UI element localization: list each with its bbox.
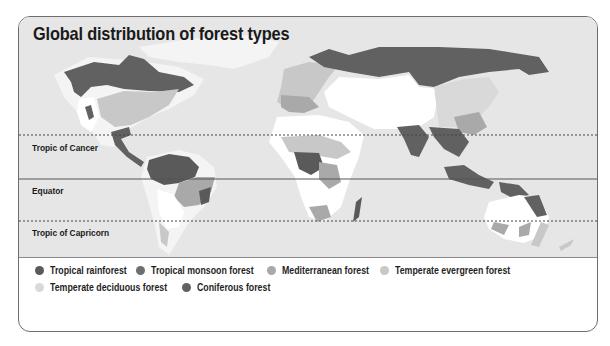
legend-item-temperate-evergreen-forest: Temperate evergreen forest — [380, 265, 516, 276]
tropical-rainforest-swatch-icon — [35, 266, 44, 275]
tropic-of-capricorn-label: Tropic of Capricorn — [32, 227, 109, 238]
equator-label: Equator — [32, 185, 64, 196]
world-map: Global distribution of forest types Trop… — [19, 17, 597, 258]
temperate-evergreen-forest-swatch-icon — [380, 266, 389, 275]
legend-item-coniferous-forest: Coniferous forest — [182, 282, 270, 293]
tropical-monsoon-forest-swatch-icon — [136, 266, 145, 275]
map-card: Global distribution of forest types Trop… — [18, 16, 598, 332]
map-title: Global distribution of forest types — [33, 23, 289, 45]
legend-item-tropical-rainforest: Tropical rainforest — [35, 265, 127, 276]
legend-item-mediterranean-forest: Mediterranean forest — [267, 265, 371, 276]
coniferous-forest-swatch-icon — [182, 283, 191, 292]
mediterranean-forest-swatch-icon — [267, 266, 276, 275]
legend-row-1: Tropical rainforest Tropical monsoon for… — [35, 262, 595, 279]
temperate-deciduous-forest-swatch-icon — [35, 283, 44, 292]
legend-item-tropical-monsoon-forest: Tropical monsoon forest — [136, 265, 258, 276]
world-map-graphic — [19, 17, 597, 257]
tropic-of-cancer-label: Tropic of Cancer — [32, 142, 98, 153]
legend-row-2: Temperate deciduous forest Coniferous fo… — [35, 279, 595, 296]
legend-item-temperate-deciduous-forest: Temperate deciduous forest — [35, 282, 173, 293]
legend: Tropical rainforest Tropical monsoon for… — [35, 262, 595, 296]
